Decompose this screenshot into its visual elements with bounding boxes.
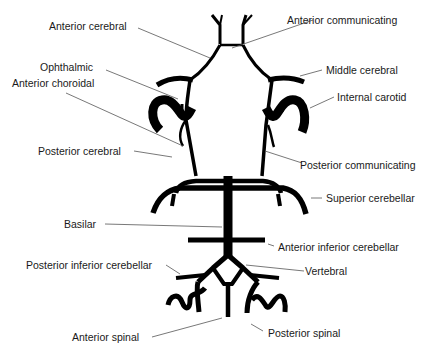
label-posterior-inferior-cerebellar: Posterior inferior cerebellar [26, 259, 152, 271]
label-anterior-spinal: Anterior spinal [72, 331, 139, 343]
label-superior-cerebellar: Superior cerebellar [326, 192, 415, 204]
label-anterior-communicating: Anterior communicating [287, 14, 397, 26]
label-ophthalmic: Ophthalmic [40, 61, 93, 73]
label-internal-carotid: Internal carotid [337, 91, 406, 103]
anterior-cerebral-vessels [190, 15, 272, 80]
label-posterior-communicating: Posterior communicating [300, 159, 416, 171]
label-anterior-cerebral: Anterior cerebral [49, 20, 127, 32]
middle-cerebral-vessels [157, 78, 304, 85]
vertebral-vessels [168, 255, 285, 317]
label-posterior-cerebral: Posterior cerebral [38, 145, 121, 157]
label-anterior-inferior-cerebellar: Anterior inferior cerebellar [278, 241, 399, 253]
artery-diagram [0, 0, 443, 354]
label-anterior-choroidal: Anterior choroidal [12, 77, 94, 89]
label-vertebral: Vertebral [305, 265, 347, 277]
label-basilar: Basilar [64, 218, 96, 230]
internal-carotid-vessels [153, 80, 305, 176]
label-middle-cerebral: Middle cerebral [326, 64, 398, 76]
label-posterior-spinal: Posterior spinal [268, 327, 340, 339]
